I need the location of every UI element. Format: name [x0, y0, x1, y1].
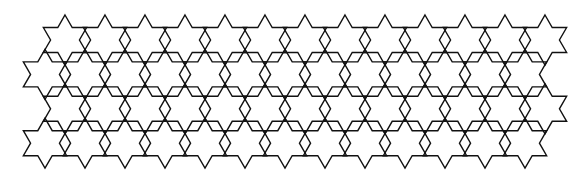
hexagram-tessellation	[0, 0, 586, 179]
